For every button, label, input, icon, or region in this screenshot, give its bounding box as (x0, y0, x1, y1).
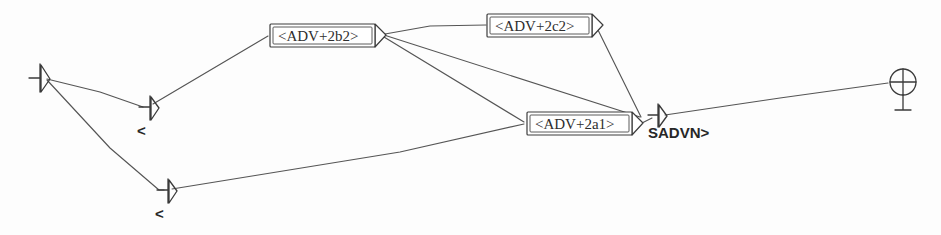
node-root-left[interactable] (29, 64, 50, 92)
edge-lower-left-to-2a1 (172, 124, 524, 189)
box-adv-2b2-label: <ADV+2b2> (278, 28, 358, 44)
edge-2c2-to-sadvn (598, 30, 641, 117)
box-right-tip-icon (375, 24, 386, 47)
node-lower-left-label: < (155, 205, 164, 222)
stem-icon (895, 95, 911, 110)
node-upper-left-label: < (137, 122, 146, 139)
terminal-circle-node[interactable] (890, 69, 916, 110)
edge-2b2-to-sadvn (384, 35, 640, 117)
box-adv-2c2[interactable]: <ADV+2c2> (487, 14, 603, 37)
arrow-head-icon (139, 96, 159, 120)
edge-2b2-to-2a1 (384, 37, 524, 122)
box-right-tip-icon (592, 14, 603, 37)
box-adv-2b2[interactable]: <ADV+2b2> (270, 24, 386, 47)
box-right-tip-icon (632, 112, 643, 135)
edge-upper-left-to-2b2 (153, 36, 268, 104)
box-adv-2a1-label: <ADV+2a1> (535, 116, 615, 132)
node-upper-left[interactable]: < (137, 96, 159, 139)
edge-root-to-lower-left (47, 80, 164, 190)
edge-2b2-to-2c2 (385, 25, 486, 34)
edge-group (47, 25, 888, 190)
box-adv-2a1[interactable]: <ADV+2a1> (527, 112, 643, 135)
edge-2a1-to-sadvn (642, 118, 652, 123)
node-lower-left[interactable]: < (155, 179, 177, 222)
node-sadvn-label: SADVN> (648, 124, 710, 141)
edge-root-to-upper-left (47, 79, 143, 107)
box-adv-2c2-label: <ADV+2c2> (495, 18, 575, 34)
dependency-diagram: < < SADVN> <ADV+2b2> (0, 0, 941, 235)
diagram-canvas: < < SADVN> <ADV+2b2> (0, 0, 941, 235)
arrow-head-icon (157, 179, 177, 203)
edge-sadvn-to-terminal (665, 83, 888, 115)
arrow-head-icon (29, 64, 50, 92)
